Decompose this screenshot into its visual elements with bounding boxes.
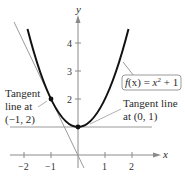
y-tick-label: 4: [67, 38, 72, 49]
y-tick-label: 2: [67, 94, 72, 105]
left-note-line2: line at: [5, 100, 32, 112]
x-axis-arrow-icon: [153, 153, 161, 158]
left-note-line3: (−1, 2): [5, 113, 35, 126]
y-tick-label: 3: [67, 66, 72, 77]
right-note-line1: Tangent line: [123, 97, 178, 109]
left-note-pointer: [38, 101, 47, 107]
point-0-1: [76, 125, 81, 130]
func-callout-line: [123, 62, 134, 76]
point-minus1-2: [49, 97, 54, 102]
y-axis-arrow-icon: [76, 15, 81, 23]
left-note-line1: Tangent: [5, 87, 40, 99]
x-tick-label: −1: [45, 161, 56, 172]
x-tick-label: 2: [129, 161, 134, 172]
right-note-line2: at (0, 1): [123, 110, 158, 123]
graph: x y −2 −1 1 2 4 3 2 f(x) = x2 + 1 Tangen…: [0, 0, 185, 178]
y-axis-label: y: [75, 3, 81, 15]
func-label: f(x) = x2 + 1: [125, 76, 178, 89]
x-axis-label: x: [162, 148, 168, 160]
x-tick-label: 1: [102, 161, 107, 172]
x-tick-label: −2: [18, 161, 29, 172]
